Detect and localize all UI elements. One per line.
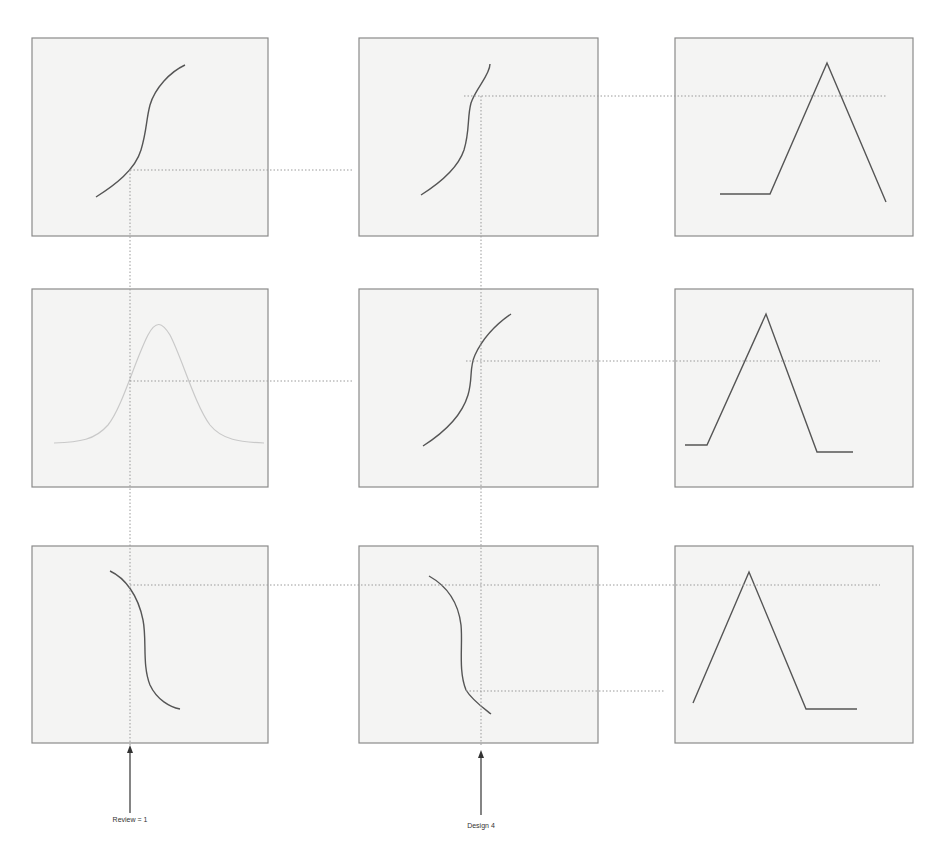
marker-label-review: Review = 1 [113,816,148,823]
arrow-review [127,745,133,813]
panel-r1-c2 [359,38,598,236]
panel-r3-c2 [359,546,598,743]
arrow-design [478,750,484,815]
projection-diagram: Review = 1 Design 4 [0,0,944,861]
panel-r1-c3 [675,38,913,236]
panel-r1-c1 [32,38,268,236]
panel-r3-c1 [32,546,268,743]
marker-label-design: Design 4 [467,822,495,830]
panel-r2-c2 [359,289,598,487]
panel-r3-c3 [675,546,913,743]
panel-r2-c1 [32,289,268,487]
